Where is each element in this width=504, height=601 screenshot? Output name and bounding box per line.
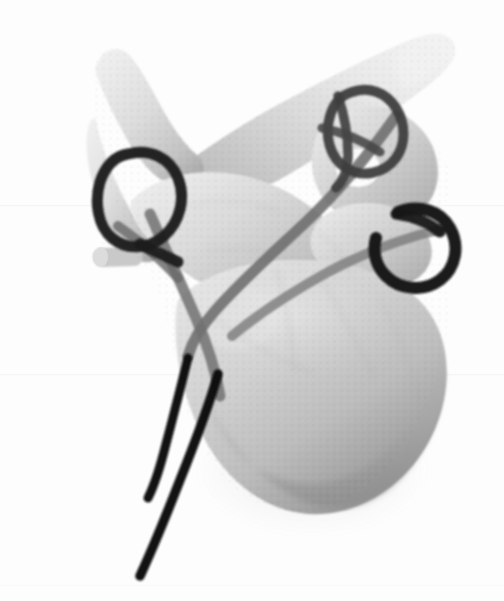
vertebra-3d-render: 3D surface rendering of cervical vertebr… bbox=[0, 0, 504, 601]
render-viewport: 3D surface rendering of cervical vertebr… bbox=[0, 0, 504, 601]
